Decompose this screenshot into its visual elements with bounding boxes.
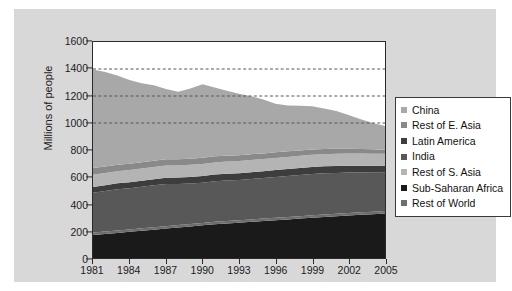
y-tick-label: 400 — [44, 199, 88, 210]
legend-item[interactable]: Rest of E. Asia — [401, 118, 503, 134]
legend-label: Sub-Saharan Africa — [412, 183, 503, 194]
y-axis-tick-labels: 02004006008001000120014001600 — [38, 41, 88, 259]
x-tick-mark — [313, 259, 314, 264]
legend-swatch-icon — [401, 138, 407, 144]
plot-area — [92, 41, 386, 259]
legend-swatch-icon — [401, 107, 407, 113]
x-tick-label: 1984 — [109, 264, 149, 276]
x-tick-label: 2005 — [366, 264, 406, 276]
y-tick-label: 200 — [44, 227, 88, 238]
y-tick-label: 1200 — [44, 90, 88, 101]
legend-item[interactable]: Latin America — [401, 133, 503, 149]
legend-swatch-icon — [401, 122, 407, 128]
legend-item[interactable]: Rest of S. Asia — [401, 164, 503, 180]
chart-panel: Millions of people 020040060080010001200… — [14, 9, 496, 282]
x-tick-mark — [239, 259, 240, 264]
legend-label: Rest of S. Asia — [412, 167, 481, 178]
legend-label: China — [412, 105, 439, 116]
y-tick-label: 1000 — [44, 118, 88, 129]
legend-label: Rest of World — [412, 198, 475, 209]
x-tick-mark — [386, 259, 387, 264]
legend-swatch-icon — [401, 185, 407, 191]
x-tick-label: 1990 — [182, 264, 222, 276]
x-tick-mark — [202, 259, 203, 264]
figure: Millions of people 020040060080010001200… — [0, 0, 512, 291]
x-tick-label: 2002 — [329, 264, 369, 276]
y-tick-label: 1600 — [44, 36, 88, 47]
legend-label: India — [412, 151, 435, 162]
legend-item[interactable]: Sub-Saharan Africa — [401, 180, 503, 196]
legend-swatch-icon — [401, 169, 407, 175]
x-tick-label: 1999 — [293, 264, 333, 276]
x-tick-label: 1981 — [72, 264, 112, 276]
y-tick-label: 0 — [44, 254, 88, 265]
legend: ChinaRest of E. AsiaLatin AmericaIndiaRe… — [395, 97, 511, 217]
stacked-area-svg — [93, 42, 385, 258]
x-tick-mark — [276, 259, 277, 264]
x-tick-label: 1996 — [256, 264, 296, 276]
y-tick-label: 800 — [44, 145, 88, 156]
legend-swatch-icon — [401, 154, 407, 160]
legend-item[interactable]: Rest of World — [401, 196, 503, 212]
x-tick-mark — [92, 259, 93, 264]
y-tick-label: 600 — [44, 172, 88, 183]
x-tick-mark — [129, 259, 130, 264]
x-tick-label: 1993 — [219, 264, 259, 276]
y-tick-label: 1400 — [44, 63, 88, 74]
legend-swatch-icon — [401, 200, 407, 206]
x-tick-mark — [166, 259, 167, 264]
legend-item[interactable]: India — [401, 149, 503, 165]
x-tick-mark — [349, 259, 350, 264]
legend-label: Rest of E. Asia — [412, 120, 481, 131]
legend-item[interactable]: China — [401, 102, 503, 118]
legend-label: Latin America — [412, 136, 476, 147]
x-tick-label: 1987 — [146, 264, 186, 276]
